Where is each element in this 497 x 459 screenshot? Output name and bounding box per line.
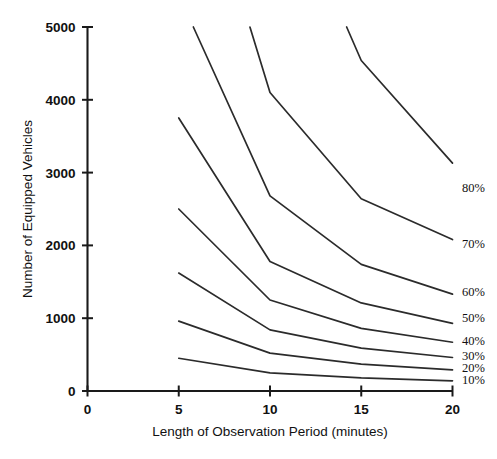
y-tick-label: 2000 [45, 238, 75, 253]
x-tick-label: 0 [84, 402, 92, 417]
series-line-40pct [179, 209, 453, 342]
series-line-80pct [347, 27, 453, 163]
x-axis-title: Length of Observation Period (minutes) [152, 424, 388, 439]
line-chart-canvas: 80%70%60%50%40%30%20%10% 010002000300040… [0, 0, 497, 459]
series-label-60pct: 60% [462, 285, 485, 299]
series-label-40pct: 40% [462, 334, 485, 348]
series-label-80pct: 80% [462, 181, 485, 195]
series-line-30pct [179, 273, 453, 357]
y-tick-labels: 010002000300040005000 [45, 20, 75, 399]
y-tick-label: 4000 [45, 93, 75, 108]
series-label-70pct: 70% [462, 237, 485, 251]
x-tick-label: 10 [262, 402, 277, 417]
x-tick-labels: 05101520 [84, 402, 460, 417]
series-group [179, 27, 453, 381]
x-tick-label: 5 [175, 402, 183, 417]
series-line-10pct [179, 358, 453, 381]
series-line-70pct [250, 27, 453, 240]
series-line-20pct [179, 321, 453, 370]
y-axis-title: Number of Equipped Vehicles [20, 120, 35, 298]
series-label-10pct: 10% [462, 373, 485, 387]
series-line-60pct [193, 27, 452, 294]
x-tick-label: 20 [445, 402, 460, 417]
y-tick-label: 0 [68, 384, 76, 399]
y-tick-label: 3000 [45, 166, 75, 181]
y-tick-label: 1000 [45, 311, 75, 326]
x-tick-label: 15 [354, 402, 370, 417]
chart-figure: 80%70%60%50%40%30%20%10% 010002000300040… [0, 0, 497, 459]
series-label-50pct: 50% [462, 311, 485, 325]
series-labels: 80%70%60%50%40%30%20%10% [462, 181, 485, 387]
y-tick-label: 5000 [45, 20, 75, 35]
